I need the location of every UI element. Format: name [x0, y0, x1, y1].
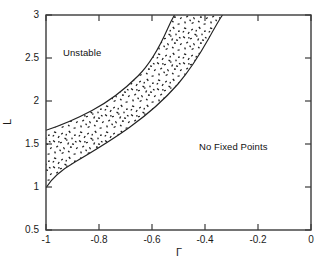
- stable-band-fill: [46, 15, 223, 188]
- xtick-label-minus-1: -1: [42, 235, 51, 245]
- xtick-label-minus-0-2: -0.2: [249, 235, 266, 245]
- xtick-label-0: 0: [308, 235, 314, 245]
- xtick-label-minus-0-8: -0.8: [90, 235, 107, 245]
- ytick-label-2-5: 2.5: [14, 53, 39, 63]
- stable-band-region: [46, 15, 223, 188]
- ytick-label-0-5: 0.5: [14, 225, 39, 235]
- y-axis-title: L: [1, 119, 13, 125]
- ytick-label-1: 1: [14, 182, 39, 192]
- ytick-label-2: 2: [14, 96, 39, 106]
- xtick-label-minus-0-4: -0.4: [196, 235, 213, 245]
- x-axis-title: Γ: [176, 246, 182, 258]
- ytick-label-1-5: 1.5: [14, 139, 39, 149]
- xtick-label-minus-0-6: -0.6: [143, 235, 160, 245]
- ytick-label-3: 3: [14, 10, 39, 20]
- figure-root: 3 2.5 2 1.5 1 0.5 -1 -0.8 -0.6 -0.4 -0.2…: [0, 0, 334, 263]
- annotation-no-fixed-points: No Fixed Points: [199, 141, 268, 152]
- phase-diagram-plot: [0, 0, 334, 263]
- annotation-unstable: Unstable: [63, 47, 101, 58]
